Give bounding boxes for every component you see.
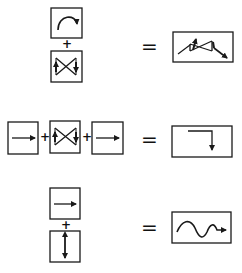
tilted-bowtie-with-diagonal-arrow-icon (173, 32, 233, 62)
composition-diagram (0, 0, 242, 273)
equals-sign: = (141, 129, 158, 149)
right-arrow-icon (50, 188, 80, 219)
equals-sign: = (141, 217, 158, 237)
wave-arrow-icon (172, 212, 231, 243)
bowtie-arrows-icon (51, 51, 82, 82)
plus-sign: + (40, 131, 50, 143)
vertical-double-arrow-icon (50, 231, 80, 262)
plus-sign: + (61, 219, 71, 231)
bowtie-arrows-icon (50, 121, 80, 153)
plus-sign: + (82, 131, 92, 143)
curved-arrow-icon (51, 8, 82, 38)
plus-sign: + (62, 38, 72, 50)
right-arrow-icon (92, 122, 123, 154)
right-then-down-arrow-icon (172, 126, 232, 157)
equals-sign: = (141, 36, 158, 56)
right-arrow-icon (8, 122, 38, 154)
